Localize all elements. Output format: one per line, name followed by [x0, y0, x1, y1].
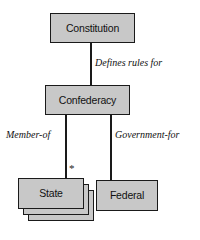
node-federal[interactable]: Federal — [96, 180, 158, 211]
node-label-confederacy: Confederacy — [59, 95, 116, 106]
multiplicity-marker-state: * — [69, 163, 75, 174]
node-label-constitution: Constitution — [66, 23, 119, 34]
edge-label-government-for: Government-for — [115, 130, 179, 140]
node-label-federal: Federal — [110, 190, 144, 201]
node-state-stack[interactable]: State — [18, 178, 94, 222]
node-state[interactable]: State — [18, 178, 84, 209]
edge-confederacy-to-federal — [110, 115, 112, 180]
diagram-canvas: Defines rules for Member-of Government-f… — [0, 0, 200, 240]
edge-constitution-to-confederacy — [90, 43, 92, 85]
edge-label-defines-rules-for: Defines rules for — [95, 58, 162, 68]
node-confederacy[interactable]: Confederacy — [45, 85, 130, 115]
edge-confederacy-to-state — [65, 115, 67, 178]
edge-label-member-of: Member-of — [6, 130, 50, 140]
node-constitution[interactable]: Constitution — [50, 13, 135, 43]
node-label-state: State — [39, 188, 63, 199]
